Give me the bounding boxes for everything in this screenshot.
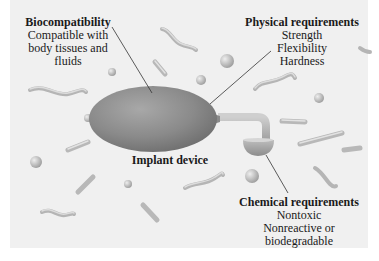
implant-device-title: Implant device xyxy=(110,154,230,167)
chemical-requirements-callout: Chemical requirements Nontoxic Nonreacti… xyxy=(224,196,374,248)
physical-requirements-callout: Physical requirements Strength Flexibili… xyxy=(232,16,372,68)
chemical-line-3: biodegradable xyxy=(224,235,374,248)
biocompatibility-line-3: fluids xyxy=(12,55,124,68)
implant-device-label: Implant device xyxy=(110,154,230,167)
biocompatibility-callout: Biocompatibility Compatible with body ti… xyxy=(12,16,124,68)
implant-device-icon xyxy=(89,86,274,156)
physical-line-3: Hardness xyxy=(232,55,372,68)
